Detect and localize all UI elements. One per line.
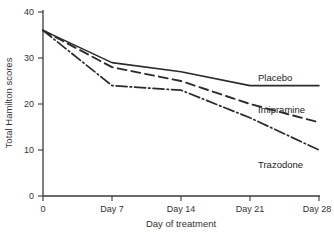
x-tick-label-day21: Day 21 — [236, 204, 265, 214]
x-tick-label-day14: Day 14 — [167, 204, 196, 214]
y-axis-ticks: 0 10 20 30 40 — [24, 7, 43, 201]
line-chart-canvas: 0 10 20 30 40 0 Day 7 Day 14 Day 21 Day … — [0, 0, 334, 232]
y-tick-label-40: 40 — [24, 7, 34, 17]
x-tick-label-day28: Day 28 — [303, 204, 332, 214]
series-group — [43, 30, 319, 150]
series-line-trazodone — [43, 30, 319, 150]
y-tick-label-20: 20 — [24, 99, 34, 109]
series-label-trazodone: Trazodone — [258, 159, 303, 170]
series-label-imipramine: Imipramine — [258, 104, 305, 115]
x-tick-label-day0: 0 — [40, 204, 45, 214]
y-tick-label-30: 30 — [24, 53, 34, 63]
x-axis-title: Day of treatment — [146, 218, 217, 229]
chart-figure: 0 10 20 30 40 0 Day 7 Day 14 Day 21 Day … — [0, 0, 334, 232]
y-tick-label-0: 0 — [29, 191, 34, 201]
y-axis-title: Total Hamilton scores — [3, 57, 14, 148]
y-tick-label-10: 10 — [24, 145, 34, 155]
series-label-placebo: Placebo — [258, 72, 292, 83]
x-axis-ticks: 0 Day 7 Day 14 Day 21 Day 28 — [40, 196, 331, 214]
x-tick-label-day7: Day 7 — [100, 204, 124, 214]
